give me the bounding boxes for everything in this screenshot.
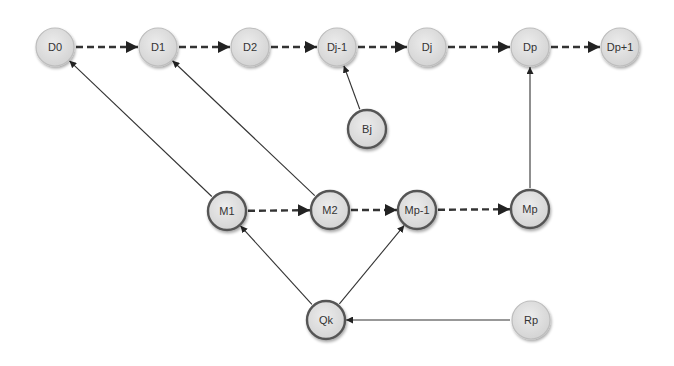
edge-m2-to-d1	[173, 61, 315, 196]
edge-qk-to-mp-1	[339, 225, 404, 303]
node-dp: Dp	[511, 28, 549, 66]
node-label: M1	[219, 205, 234, 217]
edge-bj-to-dj-1	[344, 66, 360, 109]
node-label: Mp-1	[404, 204, 429, 216]
node-label: Bj	[362, 123, 372, 135]
node-m1: M1	[208, 192, 246, 230]
node-qk: Qk	[307, 301, 345, 339]
edge-m1-to-d0	[69, 61, 211, 197]
node-mp: Mp	[511, 190, 549, 228]
nodes-layer: D0D1D2Dj-1DjDpDp+1BjM1M2Mp-1MpQkRp	[36, 28, 639, 339]
node-d2: D2	[231, 28, 269, 66]
node-label: D0	[48, 41, 62, 53]
node-label: Dj-1	[327, 41, 347, 53]
node-label: Qk	[319, 314, 334, 326]
node-label: Dp+1	[607, 41, 634, 53]
node-dj: Dj	[408, 28, 446, 66]
node-label: Rp	[524, 314, 538, 326]
node-dpplus1: Dp+1	[601, 28, 639, 66]
node-bj: Bj	[348, 110, 386, 148]
edge-mp-1-to-mp	[438, 209, 510, 210]
edge-m1-to-m2	[248, 210, 310, 211]
edge-qk-to-m1	[240, 226, 311, 305]
node-label: M2	[322, 204, 337, 216]
node-rp: Rp	[512, 301, 550, 339]
dependency-graph: D0D1D2Dj-1DjDpDp+1BjM1M2Mp-1MpQkRp	[0, 0, 674, 366]
node-label: Dj	[422, 41, 432, 53]
edges-layer	[69, 47, 600, 320]
node-m2: M2	[311, 191, 349, 229]
node-label: Dp	[523, 41, 537, 53]
node-d0: D0	[36, 28, 74, 66]
node-label: Mp	[522, 203, 537, 215]
node-label: D1	[151, 41, 165, 53]
node-label: D2	[243, 41, 257, 53]
node-d1: D1	[139, 28, 177, 66]
node-dj-1: Dj-1	[318, 28, 356, 66]
node-mp-1: Mp-1	[398, 191, 436, 229]
